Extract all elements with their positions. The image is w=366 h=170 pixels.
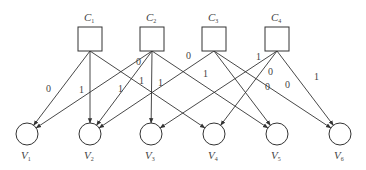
graph-svg: 0111011000101 C1C2C3C4 V1V2V3V4V5V6	[0, 0, 366, 170]
variable-nodes-group: V1V2V3V4V5V6	[16, 123, 351, 162]
variable-node-v2: V2	[79, 123, 101, 162]
edge-c1-v4	[90, 51, 205, 128]
edge-label: 1	[256, 51, 261, 62]
edge-c2-v2	[97, 51, 152, 125]
variable-node-v6: V6	[329, 123, 351, 162]
edge-c3-v6	[214, 51, 331, 128]
circle-node-shape	[140, 123, 162, 145]
circle-node-shape	[79, 123, 101, 145]
circle-node-shape	[266, 123, 288, 145]
edge-c2-v3	[151, 51, 152, 123]
check-nodes-group: C1C2C3C4	[78, 11, 289, 51]
check-node-label: C3	[208, 11, 218, 24]
bipartite-graph-diagram: 0111011000101 C1C2C3C4 V1V2V3V4V5V6	[0, 0, 366, 170]
square-node-shape	[265, 27, 289, 51]
check-node-c4: C4	[265, 11, 289, 51]
edge-c2-v5	[152, 51, 268, 128]
edge-c2-v1	[36, 51, 152, 128]
variable-node-v4: V4	[203, 123, 225, 162]
edge-label: 1	[314, 71, 319, 82]
variable-node-v3: V3	[140, 123, 162, 162]
edge-c3-v5	[214, 51, 270, 125]
check-node-c3: C3	[202, 11, 226, 51]
square-node-shape	[78, 27, 102, 51]
check-node-label: C2	[146, 11, 156, 24]
variable-node-label: V6	[334, 149, 344, 162]
circle-node-shape	[203, 123, 225, 145]
edge-label: 0	[268, 66, 273, 77]
variable-node-label: V3	[145, 149, 155, 162]
edge-label: 0	[265, 81, 270, 92]
edge-c3-v2	[99, 51, 214, 128]
variable-node-v5: V5	[266, 123, 288, 162]
edge-label: 1	[118, 83, 123, 94]
check-node-c1: C1	[78, 11, 102, 51]
check-node-c2: C2	[140, 11, 164, 51]
circle-node-shape	[16, 123, 38, 145]
square-node-shape	[202, 27, 226, 51]
edge-label: 1	[79, 84, 84, 95]
edge-label: 0	[136, 56, 141, 67]
variable-node-label: V4	[208, 149, 218, 162]
edge-label: 1	[139, 75, 144, 86]
square-node-shape	[140, 27, 164, 51]
variable-node-label: V5	[271, 149, 281, 162]
edge-c4-v3	[160, 51, 277, 128]
check-node-label: C4	[271, 11, 281, 24]
variable-node-label: V2	[84, 149, 94, 162]
edge-label: 0	[46, 83, 51, 94]
variable-node-label: V1	[21, 149, 31, 162]
circle-node-shape	[329, 123, 351, 145]
edge-label: 1	[203, 68, 208, 79]
edge-label: 0	[285, 79, 290, 90]
variable-node-v1: V1	[16, 123, 38, 162]
edge-label: 1	[158, 77, 163, 88]
check-node-label: C1	[84, 11, 94, 24]
edge-label: 0	[186, 50, 191, 61]
